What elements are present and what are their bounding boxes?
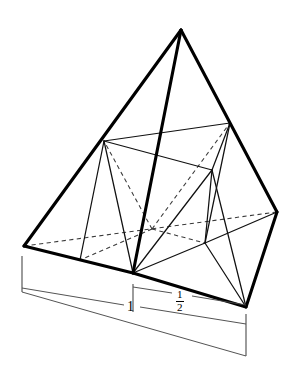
dimension-label-one-half: 1 2 [176,289,184,313]
tetra-edge-left-front [24,246,133,273]
octa-edge-apexfront-frontright [205,170,212,243]
tetra-edge-apex-left [24,30,181,246]
tetrahedron-octahedron-diagram [0,0,300,382]
tetra-edge-apex-right [181,30,277,212]
octa-edge-hidden-back-to-frontright [152,229,205,243]
octa-edge-apexfront-front [133,170,212,273]
dim-line-half-left-segment [133,287,172,293]
octa-edge-apexleft-front [104,141,133,273]
octa-edge-apexleft-leftfront [80,141,104,260]
aux-edge-apexfront-to-bottomfrontright [212,170,246,307]
fraction-one-half: 1 2 [176,289,184,313]
dimension-label-one: 1 [127,300,134,314]
octahedron-visible-edges-group [80,123,277,307]
octa-edge-apexright-apexfront [212,123,230,170]
fraction-denominator: 2 [176,302,184,313]
tetra-edge-apex-front [133,30,181,273]
aux-edge-frontright-to-right-vertex [205,212,277,243]
fraction-numerator: 1 [176,289,184,300]
octa-edge-hidden-back-to-apexright [152,123,230,229]
dim-line-one-right-segment [140,307,246,324]
figure-container: 1 1 2 [0,0,300,382]
octa-edge-apexleft-apexright [104,123,230,141]
dim-line-lower-guide [22,292,246,356]
tetra-edge-right-bottomfrontright [246,212,277,307]
